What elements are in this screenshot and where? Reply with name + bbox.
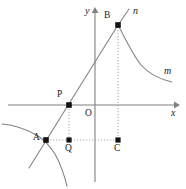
point-label-P: P xyxy=(57,90,62,100)
point-marker-Q xyxy=(66,137,71,142)
point-marker-B xyxy=(115,22,121,28)
point-label-B: B xyxy=(104,11,110,21)
curve-label-n: n xyxy=(133,6,138,16)
point-label-C: C xyxy=(114,144,120,154)
point-marker-A xyxy=(43,137,49,143)
point-marker-C xyxy=(115,137,120,142)
y-axis-arrow xyxy=(92,7,99,13)
figure-canvas xyxy=(0,0,186,189)
curve-label-m: m xyxy=(164,66,171,76)
point-label-A: A xyxy=(33,133,40,143)
y-axis-label: y xyxy=(85,6,89,16)
line-n xyxy=(29,25,118,168)
point-label-Q: Q xyxy=(65,144,72,154)
geometry-figure: A P B Q C n m y x O xyxy=(0,0,186,189)
point-marker-P xyxy=(66,102,72,108)
x-axis-label: x xyxy=(171,108,175,118)
origin-label: O xyxy=(85,109,92,119)
